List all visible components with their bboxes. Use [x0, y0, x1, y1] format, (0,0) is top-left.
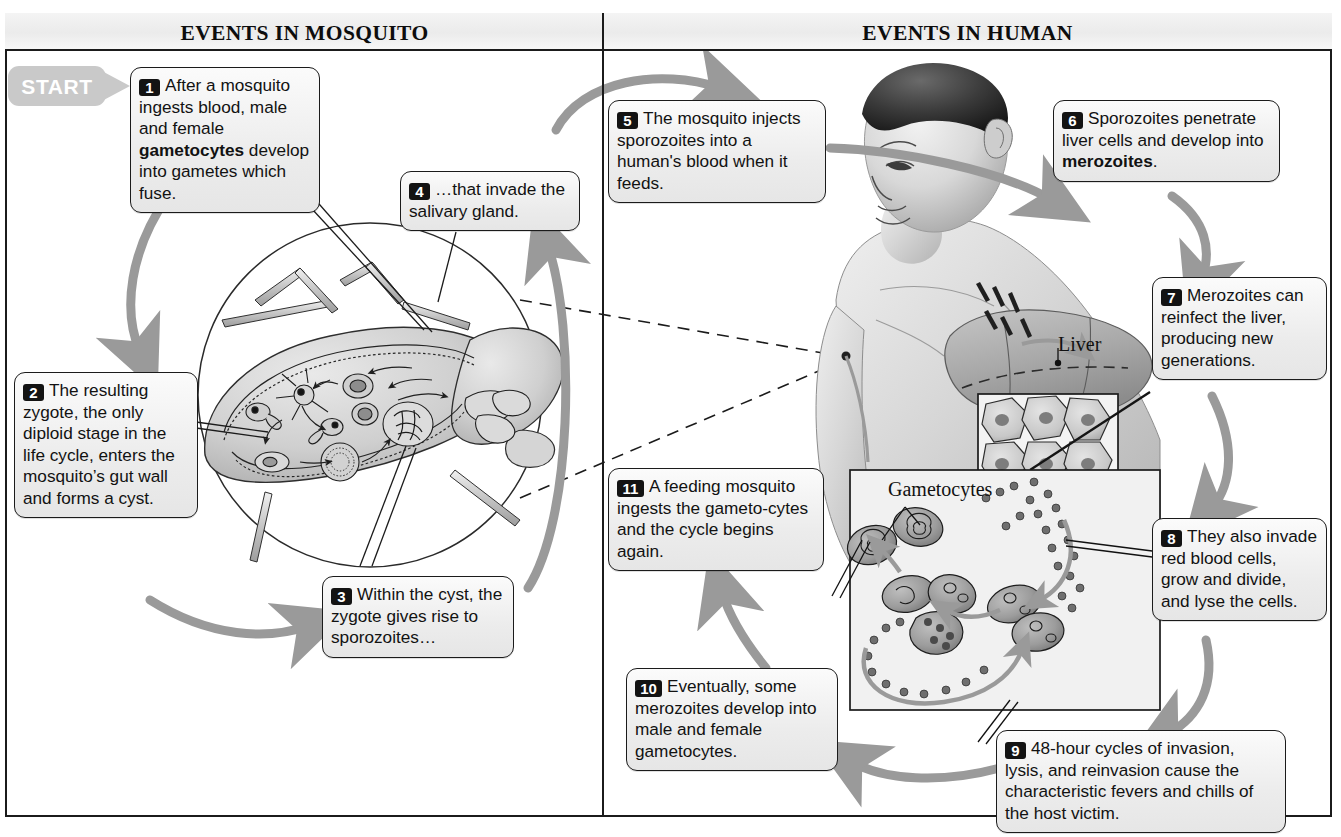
callout-step-10-text: 10Eventually, some merozoites develop in…: [635, 676, 828, 762]
step-number-badge: 8: [1161, 530, 1182, 547]
center-divider: [602, 13, 604, 817]
malaria-life-cycle-diagram: EVENTS IN MOSQUITO EVENTS IN HUMAN START…: [0, 0, 1341, 837]
header-events-in-human: EVENTS IN HUMAN: [604, 17, 1331, 49]
callout-step-8[interactable]: 8They also invade red blood cells, grow …: [1152, 518, 1327, 621]
callout-step-2-text: 2The resulting zygote, the only diploid …: [23, 380, 188, 509]
step-number-badge: 2: [23, 384, 44, 401]
step-number-badge: 9: [1005, 742, 1026, 759]
callout-step-1[interactable]: 1After a mosquito ingests blood, male an…: [130, 67, 320, 213]
step-number-badge: 11: [617, 480, 644, 497]
callout-step-7[interactable]: 7Merozoites can reinfect the liver, prod…: [1152, 277, 1327, 380]
callout-step-10[interactable]: 10Eventually, some merozoites develop in…: [626, 668, 838, 771]
step-number-badge: 1: [139, 79, 160, 96]
callout-step-11-text: 11A feeding mosquito ingests the gameto-…: [617, 476, 814, 562]
callout-step-4-text: 4…that invade the salivary gland.: [409, 179, 570, 222]
step-number-badge: 10: [635, 680, 662, 697]
step-number-badge: 4: [409, 183, 430, 200]
callout-step-1-text: 1After a mosquito ingests blood, male an…: [139, 75, 310, 204]
callout-step-9-text: 948-hour cycles of invasion, lysis, and …: [1005, 738, 1276, 824]
callout-step-7-text: 7Merozoites can reinfect the liver, prod…: [1161, 285, 1317, 371]
step-number-badge: 6: [1062, 112, 1083, 129]
callout-step-6-text: 6Sporozoites penetrate liver cells and d…: [1062, 108, 1270, 173]
start-badge: START: [8, 66, 134, 106]
liver-label: Liver: [1058, 333, 1101, 356]
start-badge-label: START: [8, 66, 106, 106]
callout-step-6[interactable]: 6Sporozoites penetrate liver cells and d…: [1053, 100, 1280, 182]
step-number-badge: 3: [331, 588, 352, 605]
callout-step-3-text: 3Within the cyst, the zygote gives rise …: [331, 584, 504, 649]
callout-step-9[interactable]: 948-hour cycles of invasion, lysis, and …: [996, 730, 1286, 833]
callout-step-4[interactable]: 4…that invade the salivary gland.: [400, 171, 580, 231]
gametocytes-label: Gametocytes: [888, 478, 992, 501]
callout-step-3[interactable]: 3Within the cyst, the zygote gives rise …: [322, 576, 514, 658]
callout-step-8-text: 8They also invade red blood cells, grow …: [1161, 526, 1317, 612]
callout-step-11[interactable]: 11A feeding mosquito ingests the gameto-…: [608, 468, 824, 571]
callout-step-5[interactable]: 5The mosquito injects sporozoites into a…: [608, 100, 826, 203]
callout-step-5-text: 5The mosquito injects sporozoites into a…: [617, 108, 816, 194]
header-events-in-mosquito: EVENTS IN MOSQUITO: [7, 17, 602, 49]
step-number-badge: 7: [1161, 289, 1182, 306]
callout-step-2[interactable]: 2The resulting zygote, the only diploid …: [14, 372, 198, 518]
step-number-badge: 5: [617, 112, 638, 129]
